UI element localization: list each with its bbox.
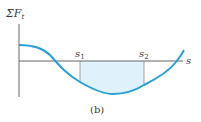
s1-label: s1 — [75, 48, 85, 61]
s2-label: s2 — [139, 48, 149, 61]
x-axis-label: s — [186, 55, 191, 66]
force-vs-position-figure: ΣFt s s1 s2 (b) — [0, 0, 201, 122]
y-axis-label: ΣFt — [5, 7, 24, 21]
chart-svg: ΣFt s s1 s2 (b) — [0, 0, 201, 122]
figure-caption: (b) — [90, 104, 104, 115]
